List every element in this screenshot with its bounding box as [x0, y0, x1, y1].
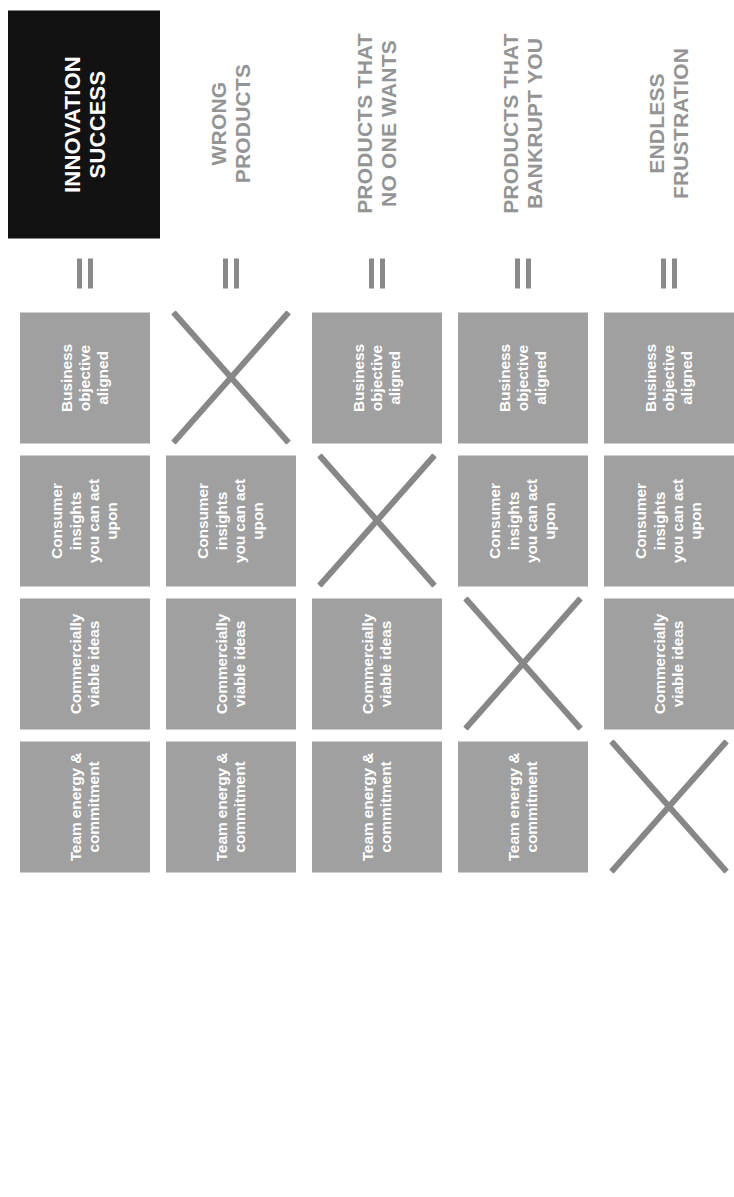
outcome-text: PRODUCTS THATNO ONE WANTS [353, 0, 401, 246]
outcome-label: PRODUCTS THATNO ONE WANTS [312, 0, 442, 246]
ingredient-label: Business objectivealigned [58, 320, 113, 435]
ingredient-label: Business objectivealigned [496, 320, 551, 435]
ingredient-label: Consumer insightsyou can act upon [486, 463, 559, 578]
outcome-label-primary: INNOVATIONSUCCESS [20, 0, 150, 246]
ingredient-cell: Team energy &commitment [458, 729, 588, 872]
ingredient-box: Business objectivealigned [312, 312, 442, 443]
ingredient-box: Consumer insightsyou can act upon [166, 455, 296, 586]
equation-row: PRODUCTS THATBANKRUPT YOUBusiness object… [458, 0, 588, 1197]
ingredient-box: Team energy &commitment [20, 741, 150, 872]
ingredient-cell: Commerciallyviable ideas [604, 586, 734, 729]
ingredient-cell: Business objectivealigned [604, 300, 734, 443]
missing-ingredient-x-icon [458, 598, 588, 729]
ingredient-box: Team energy &commitment [166, 741, 296, 872]
ingredient-cell [312, 443, 442, 586]
equals-sign [312, 246, 442, 300]
equation-row: WRONGPRODUCTSConsumer insightsyou can ac… [166, 0, 296, 1197]
ingredient-box: Consumer insightsyou can act upon [604, 455, 734, 586]
ingredient-label: Team energy &commitment [359, 752, 396, 861]
missing-ingredient-x-icon [604, 741, 734, 872]
ingredient-cell: Business objectivealigned [458, 300, 588, 443]
equals-glyph [77, 258, 93, 288]
ingredient-cell: Consumer insightsyou can act upon [458, 443, 588, 586]
ingredient-label: Business objectivealigned [642, 320, 697, 435]
ingredient-label: Consumer insightsyou can act upon [194, 463, 267, 578]
outcome-text: WRONGPRODUCTS [207, 0, 255, 246]
outcome-text: INNOVATIONSUCCESS [60, 10, 110, 238]
ingredient-cell: Team energy &commitment [20, 729, 150, 872]
ingredient-cell [604, 729, 734, 872]
ingredient-box: Consumer insightsyou can act upon [20, 455, 150, 586]
ingredient-cell: Commerciallyviable ideas [20, 586, 150, 729]
outcome-label: WRONGPRODUCTS [166, 0, 296, 246]
equals-glyph [369, 258, 385, 288]
equation-row: ENDLESSFRUSTRATIONBusiness objectivealig… [604, 0, 734, 1197]
ingredient-label: Consumer insightsyou can act upon [632, 463, 705, 578]
ingredient-box: Team energy &commitment [458, 741, 588, 872]
ingredient-cell [458, 586, 588, 729]
ingredient-label: Consumer insightsyou can act upon [48, 463, 121, 578]
ingredient-box: Commerciallyviable ideas [312, 598, 442, 729]
equation-row: PRODUCTS THATNO ONE WANTSBusiness object… [312, 0, 442, 1197]
ingredient-cell: Consumer insightsyou can act upon [604, 443, 734, 586]
ingredient-label: Team energy &commitment [67, 752, 104, 861]
outcome-label: PRODUCTS THATBANKRUPT YOU [458, 0, 588, 246]
ingredient-cell: Business objectivealigned [20, 300, 150, 443]
ingredient-box: Commerciallyviable ideas [166, 598, 296, 729]
ingredient-label: Team energy &commitment [505, 752, 542, 861]
ingredient-label: Business objectivealigned [350, 320, 405, 435]
ingredient-label: Commerciallyviable ideas [213, 613, 250, 713]
ingredient-box: Business objectivealigned [458, 312, 588, 443]
outcome-text: ENDLESSFRUSTRATION [645, 0, 693, 246]
ingredient-cell [166, 300, 296, 443]
equals-sign [20, 246, 150, 300]
ingredient-box: Commerciallyviable ideas [20, 598, 150, 729]
missing-ingredient-x-icon [312, 455, 442, 586]
ingredient-box: Team energy &commitment [312, 741, 442, 872]
ingredient-cell: Team energy &commitment [312, 729, 442, 872]
ingredient-label: Team energy &commitment [213, 752, 250, 861]
equals-sign [604, 246, 734, 300]
missing-ingredient-x-icon [166, 312, 296, 443]
ingredient-box: Business objectivealigned [604, 312, 734, 443]
ingredient-cell: Team energy &commitment [166, 729, 296, 872]
ingredient-box: Consumer insightsyou can act upon [458, 455, 588, 586]
equals-glyph [661, 258, 677, 288]
ingredient-cell: Consumer insightsyou can act upon [20, 443, 150, 586]
ingredient-box: Business objectivealigned [20, 312, 150, 443]
equals-glyph [515, 258, 531, 288]
equals-glyph [223, 258, 239, 288]
equation-row: INNOVATIONSUCCESSBusiness objectivealign… [20, 0, 150, 1197]
ingredient-label: Commerciallyviable ideas [651, 613, 688, 713]
equals-sign [458, 246, 588, 300]
outcome-label: ENDLESSFRUSTRATION [604, 0, 734, 246]
ingredient-label: Commerciallyviable ideas [67, 613, 104, 713]
ingredient-label: Commerciallyviable ideas [359, 613, 396, 713]
ingredient-cell: Commerciallyviable ideas [312, 586, 442, 729]
ingredient-cell: Commerciallyviable ideas [166, 586, 296, 729]
equals-sign [166, 246, 296, 300]
ingredient-box: Commerciallyviable ideas [604, 598, 734, 729]
ingredient-cell: Business objectivealigned [312, 300, 442, 443]
outcome-text: PRODUCTS THATBANKRUPT YOU [499, 0, 547, 246]
ingredient-cell: Consumer insightsyou can act upon [166, 443, 296, 586]
